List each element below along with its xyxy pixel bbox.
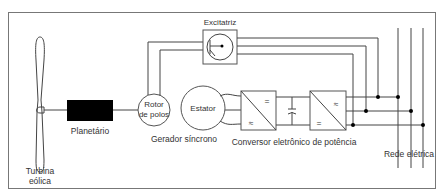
grid-label: Rede elétrica [384, 149, 434, 159]
exciter-label: Excitatriz [204, 18, 236, 27]
turbine-label-2: eólica [29, 176, 51, 186]
inverter-ac-symbol: ≈ [334, 99, 339, 109]
rotor-label: Rotor [144, 100, 164, 109]
rectifier-ac-symbol: ≈ [249, 118, 254, 128]
generator-label: Gerador síncrono [151, 134, 217, 144]
gearbox-block [67, 100, 113, 121]
inverter-dc-symbol: = [317, 118, 322, 128]
exciter-feed-1 [237, 38, 378, 97]
capacitor-icon [288, 97, 296, 125]
turbine-icon [36, 37, 45, 172]
inverter-block: ≈ = [310, 91, 346, 130]
gearbox-label: Planetário [71, 126, 110, 136]
exciter-box [203, 30, 237, 64]
stator-label: Estator [190, 104, 216, 113]
stator-phase-1 [220, 94, 241, 96]
rectifier-dc-symbol: = [265, 96, 270, 106]
grid-lines [398, 28, 423, 168]
wind-turbine-diagram: Turbina eólica Planetário Rotor de polos… [0, 0, 443, 196]
turbine-label: Turbina [26, 166, 55, 176]
converter-label: Conversor eletrônico de potência [232, 137, 357, 147]
stator-phase-3 [220, 121, 241, 124]
rectifier-block: = ≈ [241, 91, 276, 130]
rotor-label-2: de polos [139, 110, 169, 119]
